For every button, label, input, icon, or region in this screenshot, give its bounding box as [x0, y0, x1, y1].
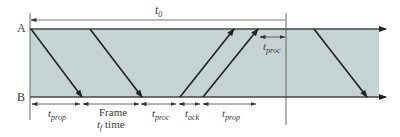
frame-time-label: Frame tf time	[97, 106, 127, 132]
tproc-label: tproc	[152, 107, 169, 119]
frame-label: Frame	[97, 106, 127, 118]
tprop-2-label: tprop	[222, 107, 240, 119]
station-b-label: B	[17, 90, 25, 105]
timeline-band	[30, 29, 379, 97]
station-a-label: A	[17, 21, 26, 36]
top-tproc-label: tproc	[263, 40, 280, 52]
t0-label: t0	[155, 3, 162, 18]
tack-label: tack	[185, 107, 199, 119]
tprop-1-label: tprop	[48, 107, 66, 119]
tf-time-label: tf time	[97, 118, 127, 132]
